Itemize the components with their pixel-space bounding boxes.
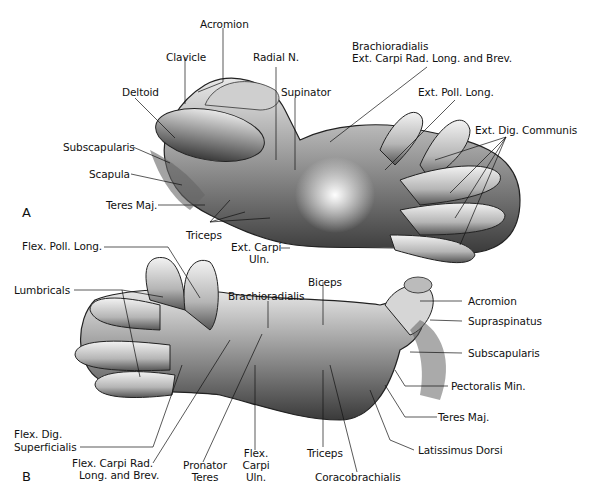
- label-subscapularis-b: Subscapularis: [468, 347, 540, 359]
- label-triceps-a: Triceps: [186, 229, 222, 241]
- label-acromion-a: Acromion: [200, 18, 249, 30]
- label-lumbricals: Lumbricals: [14, 284, 70, 296]
- label-flex-dig-sup-2: Superficialis: [14, 441, 77, 453]
- label-brachioradialis-b: Brachioradialis: [228, 290, 304, 302]
- label-flex-carpi-uln-3: Uln.: [242, 471, 270, 483]
- label-ext-carpi-uln-1: Ext. Carpi: [231, 241, 281, 253]
- label-flex-carpi-rad-2: Long. and Brev.: [79, 469, 159, 481]
- label-ext-carpi-uln-2: Uln.: [249, 253, 269, 265]
- label-flex-carpi-rad-1: Flex. Carpi Rad.: [72, 457, 153, 469]
- label-pronator-teres-1: Pronator: [180, 459, 230, 471]
- label-ext-dig-communis: Ext. Dig. Communis: [475, 124, 577, 136]
- label-teres-maj-a: Teres Maj.: [106, 199, 157, 211]
- label-latissimus-dorsi: Latissimus Dorsi: [418, 444, 502, 456]
- label-supraspinatus: Supraspinatus: [468, 315, 542, 327]
- label-pectoralis-min: Pectoralis Min.: [451, 380, 526, 392]
- label-triceps-b: Triceps: [307, 447, 343, 459]
- panel-a-letter: A: [22, 205, 31, 220]
- label-radial-n: Radial N.: [253, 51, 299, 63]
- label-flex-dig-sup-1: Flex. Dig.: [14, 428, 62, 440]
- label-brachioradialis-a-1: Brachioradialis: [352, 40, 428, 52]
- label-ext-poll-long: Ext. Poll. Long.: [418, 86, 494, 98]
- label-biceps: Biceps: [308, 276, 342, 288]
- label-flex-carpi-uln-1: Flex.: [242, 447, 270, 459]
- label-flex-poll-long: Flex. Poll. Long.: [22, 240, 102, 252]
- label-supinator: Supinator: [281, 86, 331, 98]
- panel-b-letter: B: [22, 469, 31, 484]
- label-brachioradialis-a-2: Ext. Carpi Rad. Long. and Brev.: [352, 52, 512, 64]
- label-flex-carpi-uln-2: Carpi: [242, 459, 270, 471]
- anatomy-figure: A B Acromion Clavicle Radial N. Brachior…: [0, 0, 591, 499]
- label-teres-maj-b: Teres Maj.: [438, 411, 489, 423]
- label-acromion-b: Acromion: [468, 295, 517, 307]
- arm-b-shapes: [75, 257, 446, 420]
- label-deltoid: Deltoid: [122, 86, 159, 98]
- label-clavicle: Clavicle: [166, 51, 206, 63]
- label-scapula: Scapula: [89, 168, 130, 180]
- label-coracobrachialis: Coracobrachialis: [315, 471, 401, 483]
- label-pronator-teres-2: Teres: [180, 471, 230, 483]
- label-subscapularis-a: Subscapularis: [63, 141, 135, 153]
